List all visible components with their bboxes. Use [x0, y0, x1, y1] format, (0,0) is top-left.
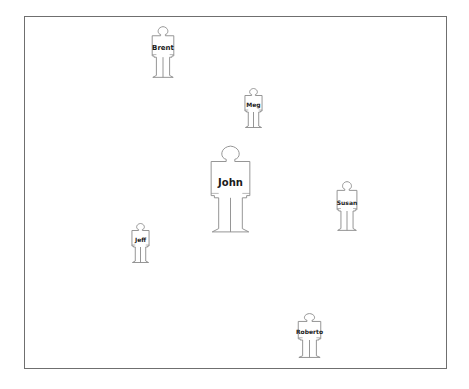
- person-figure-susan: Susan: [336, 181, 358, 231]
- person-silhouette-icon: [151, 26, 175, 78]
- person-name-label: Brent: [141, 45, 185, 52]
- person-figure-jeff: Jeff: [131, 223, 150, 263]
- person-silhouette-icon: [297, 313, 322, 358]
- person-name-label: John: [199, 178, 262, 188]
- person-figure-meg: Meg: [244, 88, 263, 128]
- person-figure-john: John: [209, 145, 252, 233]
- person-name-label: Susan: [326, 200, 368, 206]
- person-name-label: Roberto: [287, 329, 332, 335]
- person-name-label: Meg: [234, 102, 273, 108]
- person-silhouette-icon: [209, 145, 252, 233]
- person-figure-brent: Brent: [151, 26, 175, 78]
- person-silhouette-icon: [336, 181, 358, 231]
- person-name-label: Jeff: [121, 237, 160, 243]
- person-figure-roberto: Roberto: [297, 313, 322, 358]
